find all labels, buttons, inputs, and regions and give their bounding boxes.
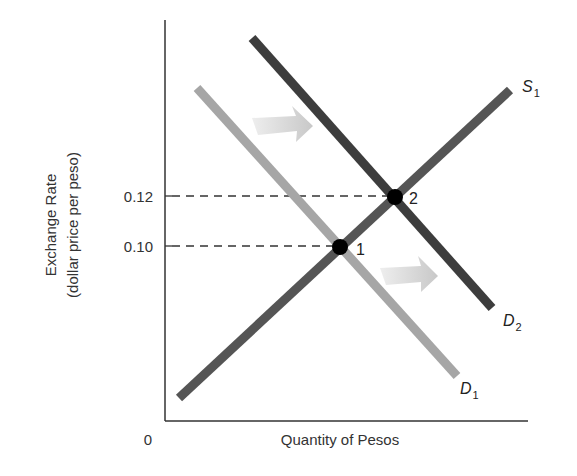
x-axis-label: Quantity of Pesos	[281, 431, 399, 448]
equilibrium-point-1	[332, 239, 348, 255]
equilibrium-point-2	[387, 189, 403, 205]
y-axis-label-line1: Exchange Rate	[42, 174, 59, 277]
shift-arrow-lower-icon	[380, 256, 438, 292]
y-axis-label-line2: (dollar price per peso)	[64, 152, 81, 298]
d1-label: D1	[460, 380, 479, 401]
exchange-rate-chart: 1 2 S1 D2 D1 0.12 0.10 0 Quantity of Pes…	[0, 0, 577, 476]
point-2-label: 2	[409, 190, 418, 207]
y-tick-label-0.12: 0.12	[124, 188, 153, 205]
point-1-label: 1	[356, 241, 365, 258]
s1-label: S1	[522, 78, 540, 99]
d2-label: D2	[503, 312, 522, 333]
shift-arrow-upper-icon	[252, 106, 313, 142]
origin-label: 0	[144, 431, 152, 448]
demand-curve-d2	[252, 38, 492, 308]
demand-curve-d1	[197, 88, 457, 376]
y-tick-label-0.10: 0.10	[124, 238, 153, 255]
